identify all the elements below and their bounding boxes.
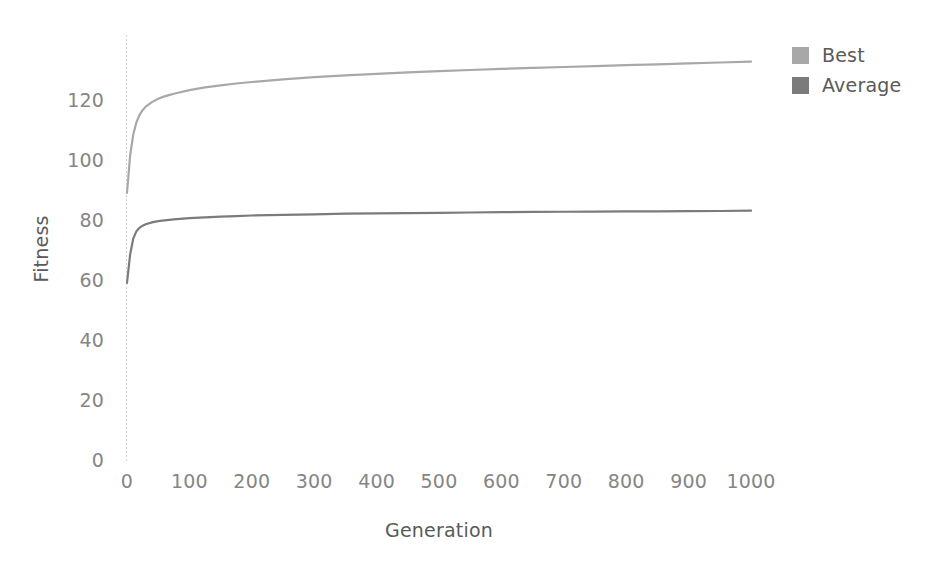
- x-axis-title: Generation: [127, 519, 751, 541]
- x-axis-tick-label: 0: [121, 472, 133, 491]
- legend-item-best[interactable]: Best: [792, 40, 901, 70]
- legend-swatch-icon: [792, 77, 809, 94]
- y-axis-tick-label: 0: [40, 451, 104, 470]
- y-axis-tick-label: 100: [40, 151, 104, 170]
- x-axis-tick-label: 800: [608, 472, 645, 491]
- x-axis-tick-label: 700: [545, 472, 582, 491]
- x-axis-tick-label: 400: [358, 472, 395, 491]
- x-axis-tick-label: 300: [296, 472, 333, 491]
- x-axis-tick-label: 500: [421, 472, 458, 491]
- y-axis-tick-label: 20: [40, 391, 104, 410]
- x-axis-tick-label: 1000: [726, 472, 775, 491]
- y-axis-tick-label: 40: [40, 331, 104, 350]
- series-lines: [127, 35, 751, 460]
- x-axis-tick-labels: 01002003004005006007008009001000: [127, 472, 751, 500]
- fitness-chart: 020406080100120 010020030040050060070080…: [0, 0, 926, 566]
- x-axis-tick-label: 900: [670, 472, 707, 491]
- series-line-best: [127, 62, 751, 193]
- y-axis-tick-label: 120: [40, 91, 104, 110]
- x-axis-tick-label: 100: [171, 472, 208, 491]
- legend-label: Best: [822, 46, 865, 65]
- x-axis-tick-label: 600: [483, 472, 520, 491]
- legend-swatch-icon: [792, 47, 809, 64]
- chart-legend: BestAverage: [792, 40, 901, 100]
- plot-area: [127, 35, 751, 460]
- y-axis-title: Fitness: [30, 189, 52, 309]
- legend-label: Average: [822, 76, 901, 95]
- series-line-average: [127, 211, 751, 283]
- legend-item-average[interactable]: Average: [792, 70, 901, 100]
- x-axis-tick-label: 200: [233, 472, 270, 491]
